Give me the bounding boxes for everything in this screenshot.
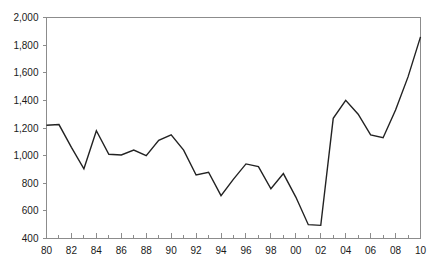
x-axis-tick-labels: 80828486889092949698000204060810 xyxy=(41,245,427,256)
y-axis-label-800: 800 xyxy=(22,178,39,189)
y-axis-label-1800: 1,800 xyxy=(13,40,38,51)
x-axis-label-94: 94 xyxy=(215,245,227,256)
y-axis-label-1200: 1,200 xyxy=(13,123,38,134)
data-series-group xyxy=(47,37,421,226)
x-axis-label-84: 84 xyxy=(91,245,103,256)
x-axis-label-80: 80 xyxy=(41,245,53,256)
x-axis-label-82: 82 xyxy=(66,245,78,256)
x-axis-label-90: 90 xyxy=(166,245,178,256)
x-axis-label-02: 02 xyxy=(315,245,327,256)
y-axis-ticks xyxy=(43,18,47,239)
chart-container: 4006008001,0001,2001,4001,6001,8002,000 … xyxy=(0,0,437,266)
y-axis-tick-labels: 4006008001,0001,2001,4001,6001,8002,000 xyxy=(13,12,38,244)
x-axis-label-92: 92 xyxy=(191,245,203,256)
y-axis-label-2000: 2,000 xyxy=(13,12,38,23)
y-axis-label-1600: 1,600 xyxy=(13,67,38,78)
y-axis-label-600: 600 xyxy=(22,205,39,216)
axis-frame xyxy=(47,18,421,239)
x-axis-label-86: 86 xyxy=(116,245,128,256)
y-axis-label-400: 400 xyxy=(22,233,39,244)
x-axis-label-00: 00 xyxy=(290,245,302,256)
y-axis-label-1000: 1,000 xyxy=(13,150,38,161)
plot-frame xyxy=(47,18,421,239)
x-axis-label-06: 06 xyxy=(365,245,377,256)
y-axis-label-1400: 1,400 xyxy=(13,95,38,106)
x-axis-label-98: 98 xyxy=(265,245,277,256)
x-axis-label-88: 88 xyxy=(141,245,153,256)
x-axis-label-10: 10 xyxy=(415,245,427,256)
x-axis-label-96: 96 xyxy=(240,245,252,256)
line-chart: 4006008001,0001,2001,4001,6001,8002,000 … xyxy=(0,0,437,266)
x-axis-ticks xyxy=(47,233,421,239)
x-axis-label-04: 04 xyxy=(340,245,352,256)
data-line-series-1 xyxy=(47,37,421,226)
x-axis-label-08: 08 xyxy=(390,245,402,256)
